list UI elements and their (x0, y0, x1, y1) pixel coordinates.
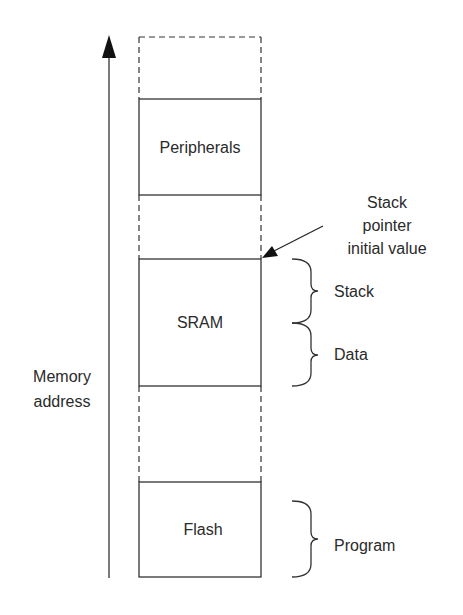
memory-map-diagram: Memory address Peripherals SRAM Flash St… (0, 0, 463, 615)
program-brace-label: Program (334, 537, 395, 554)
annotation-line1: Stack (367, 194, 408, 211)
peripherals-label: Peripherals (160, 139, 241, 156)
arrow-head-icon (262, 246, 278, 258)
stack-brace (292, 259, 318, 323)
annotation-line2: pointer (363, 217, 413, 234)
braces (292, 259, 318, 577)
data-brace (292, 323, 318, 386)
data-brace-label: Data (334, 346, 368, 363)
stack-brace-label: Stack (334, 283, 375, 300)
annotation-line3: initial value (347, 240, 426, 257)
memory-address-axis (102, 35, 116, 578)
sram-label: SRAM (177, 314, 223, 331)
arrow-up-icon (102, 35, 116, 58)
stack-pointer-arrow (262, 226, 323, 258)
axis-label-line2: address (34, 393, 91, 410)
flash-label: Flash (183, 521, 222, 538)
program-brace (292, 501, 318, 577)
axis-label-line1: Memory (33, 368, 91, 385)
